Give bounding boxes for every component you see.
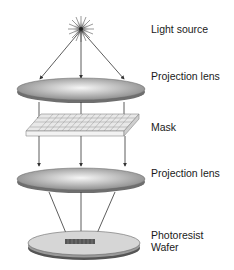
light-rays-to-lens [39, 136, 125, 166]
label-wafer: Wafer [151, 241, 179, 253]
projection-lens-top [17, 78, 145, 103]
mask-icon [26, 114, 139, 136]
projection-lens-bottom [17, 168, 145, 193]
label-projection-lens-top: Projection lens [151, 70, 220, 82]
label-photoresist: Photoresist [151, 229, 204, 241]
wafer-icon [28, 231, 140, 260]
label-light-source: Light source [151, 23, 208, 35]
label-projection-lens-bottom: Projection lens [151, 167, 220, 179]
label-mask: Mask [151, 121, 176, 133]
